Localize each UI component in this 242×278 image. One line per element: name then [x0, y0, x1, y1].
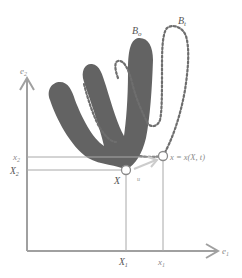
horizontal-axis-label: e1 — [222, 246, 229, 257]
x1-tick-label: x1 — [157, 257, 165, 268]
continuum-deformation-diagram: e2 e1 Bo Bt X x = x(X, t) u x2 X2 X1 x1 — [0, 0, 242, 278]
reference-body-shape — [49, 38, 153, 170]
reference-point-marker — [122, 166, 131, 175]
current-point-marker — [159, 152, 168, 161]
X1-tick-label: X1 — [118, 257, 128, 268]
x2-tick-label: x2 — [12, 152, 20, 163]
reference-body-label: Bo — [132, 25, 142, 38]
current-point-label: x = x(X, t) — [169, 152, 205, 162]
displacement-label: u — [137, 176, 140, 182]
current-body-label: Bt — [178, 15, 187, 28]
reference-point-label: X — [113, 175, 121, 186]
vertical-axis-label: e2 — [20, 66, 27, 77]
X2-tick-label: X2 — [9, 166, 19, 177]
